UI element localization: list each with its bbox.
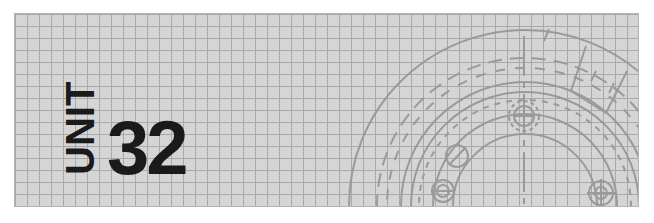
unit-header-banner: UNIT 32	[14, 13, 639, 207]
unit-label: UNIT	[63, 82, 97, 175]
unit-number: 32	[107, 110, 186, 186]
